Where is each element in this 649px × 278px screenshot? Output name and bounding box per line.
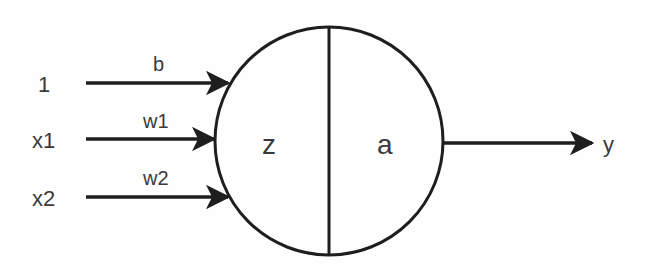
input-x2: x2 w2	[32, 167, 228, 211]
output-label: y	[603, 132, 614, 157]
input-label: 1	[38, 72, 50, 97]
input-x1: x1 w1	[32, 110, 214, 153]
weight-label: b	[153, 53, 164, 75]
input-bias: 1 b	[38, 53, 228, 97]
input-label: x2	[32, 186, 55, 211]
input-label: x1	[32, 128, 55, 153]
neuron-diagram: 1 b x1 w1 x2 w2 z a y	[0, 0, 649, 278]
output: y	[443, 132, 614, 157]
weight-label: w2	[142, 167, 169, 189]
preactivation-label: z	[262, 129, 276, 160]
neuron-diagram-svg: 1 b x1 w1 x2 w2 z a y	[0, 0, 649, 278]
activation-label: a	[377, 129, 393, 160]
weight-label: w1	[142, 110, 169, 132]
neuron: z a	[215, 27, 443, 255]
